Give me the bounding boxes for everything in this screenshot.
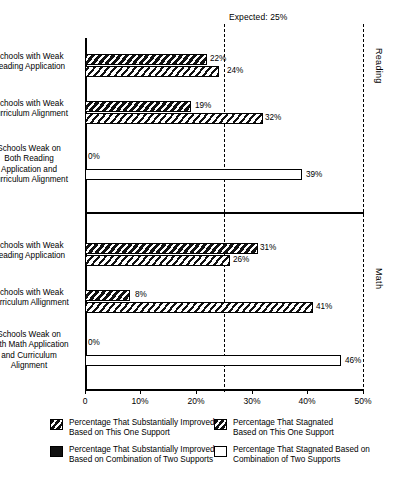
bar-value-reading-both-stagnated: 39% [306, 169, 322, 180]
bar-value-math-weak-reading-improved: 31% [260, 242, 276, 253]
bar-reading-weak-reading-improved [85, 54, 207, 65]
bar-value-math-weak-reading-stagnated: 26% [233, 254, 249, 265]
row-label-reading-both: Schools Weak on Both Reading Application… [0, 144, 69, 186]
x-tick-30 [252, 389, 253, 394]
legend-item-stagnated-one-support: Percentage That Stagnated Based on This … [214, 418, 334, 438]
x-tick-label-50: 50% [343, 396, 383, 406]
row-label-math-both: Schools Weak on Both Math Application an… [0, 330, 69, 372]
x-tick-label-0: 0 [65, 396, 105, 406]
x-tick-label-40: 40% [287, 396, 327, 406]
legend-swatch-stagnated-combination [214, 446, 227, 457]
chart-page: Expected: 25% 0 10% 20% 30% 40% 50% Scho… [0, 0, 402, 483]
bar-math-weak-reading-stagnated [85, 255, 230, 266]
x-tick-label-10: 10% [120, 396, 160, 406]
panel-label-math: Math [374, 268, 384, 289]
bar-reading-weak-curriculum-stagnated [85, 113, 263, 124]
legend-swatch-stagnated-one-support [214, 419, 227, 430]
row-label-reading-weak-reading-application: Schools with Weak Reading Application [0, 52, 69, 73]
bar-value-reading-both-improved: 0% [88, 151, 100, 162]
expected-reference-label: Expected: 25% [229, 12, 287, 22]
legend-item-improved-one-support: Percentage That Substantially Improved B… [50, 418, 215, 438]
bar-reading-both-improved [85, 158, 87, 169]
legend-item-stagnated-combination: Percentage That Stagnated Based on Combi… [214, 445, 370, 465]
legend-label-stagnated-combination: Percentage That Stagnated Based on Combi… [233, 445, 370, 465]
row-label-reading-weak-curriculum: Schools with Weak Curriculum Alignment [0, 99, 69, 120]
chart-legend: Percentage That Substantially Improved B… [0, 416, 402, 480]
x-tick-0 [85, 389, 86, 394]
row-label-math-weak-curriculum: Schools with Weak Curriculum Allignment [0, 288, 69, 309]
bar-math-both-improved [85, 344, 87, 355]
x-tick-10 [140, 389, 141, 394]
legend-swatch-improved-combination [50, 446, 63, 457]
bar-math-weak-reading-improved [85, 243, 258, 254]
expected-reference-line [224, 24, 225, 392]
bar-value-reading-weak-reading-stagnated: 24% [227, 65, 243, 76]
legend-item-improved-combination: Percentage That Substantially Improved B… [50, 445, 215, 465]
bar-chart-plot-area: Expected: 25% 0 10% 20% 30% 40% 50% Scho… [0, 0, 402, 412]
x-tick-20 [196, 389, 197, 394]
legend-swatch-improved-one-support [50, 419, 63, 430]
legend-label-stagnated-one-support: Percentage That Stagnated Based on This … [233, 418, 334, 438]
bar-value-math-weak-curriculum-improved: 8% [135, 289, 147, 300]
bar-math-weak-curriculum-improved [85, 290, 130, 301]
bar-value-math-weak-curriculum-stagnated: 41% [316, 301, 332, 312]
bar-math-weak-curriculum-stagnated [85, 302, 313, 313]
bar-value-reading-weak-curriculum-stagnated: 32% [265, 112, 281, 123]
bar-reading-both-stagnated [85, 169, 302, 180]
panel-label-reading: Reading [374, 48, 384, 84]
bar-value-reading-weak-curriculum-improved: 19% [195, 100, 211, 111]
x-tick-50 [363, 389, 364, 394]
x-tick-40 [307, 389, 308, 394]
bar-reading-weak-reading-stagnated [85, 66, 219, 77]
bar-reading-weak-curriculum-improved [85, 101, 191, 112]
x-tick-label-20: 20% [176, 396, 216, 406]
x-tick-label-30: 30% [232, 396, 272, 406]
bar-value-math-both-improved: 0% [88, 337, 100, 348]
fifty-percent-reference-line [363, 24, 364, 392]
bar-math-both-stagnated [85, 355, 341, 366]
legend-label-improved-combination: Percentage That Substantially Improved B… [69, 445, 215, 465]
legend-label-improved-one-support: Percentage That Substantially Improved B… [69, 418, 215, 438]
bar-value-math-both-stagnated: 46% [345, 355, 361, 366]
row-label-math-weak-reading-application: Schools with Weak Reading Application [0, 241, 69, 262]
bar-value-reading-weak-reading-improved: 22% [210, 53, 226, 64]
